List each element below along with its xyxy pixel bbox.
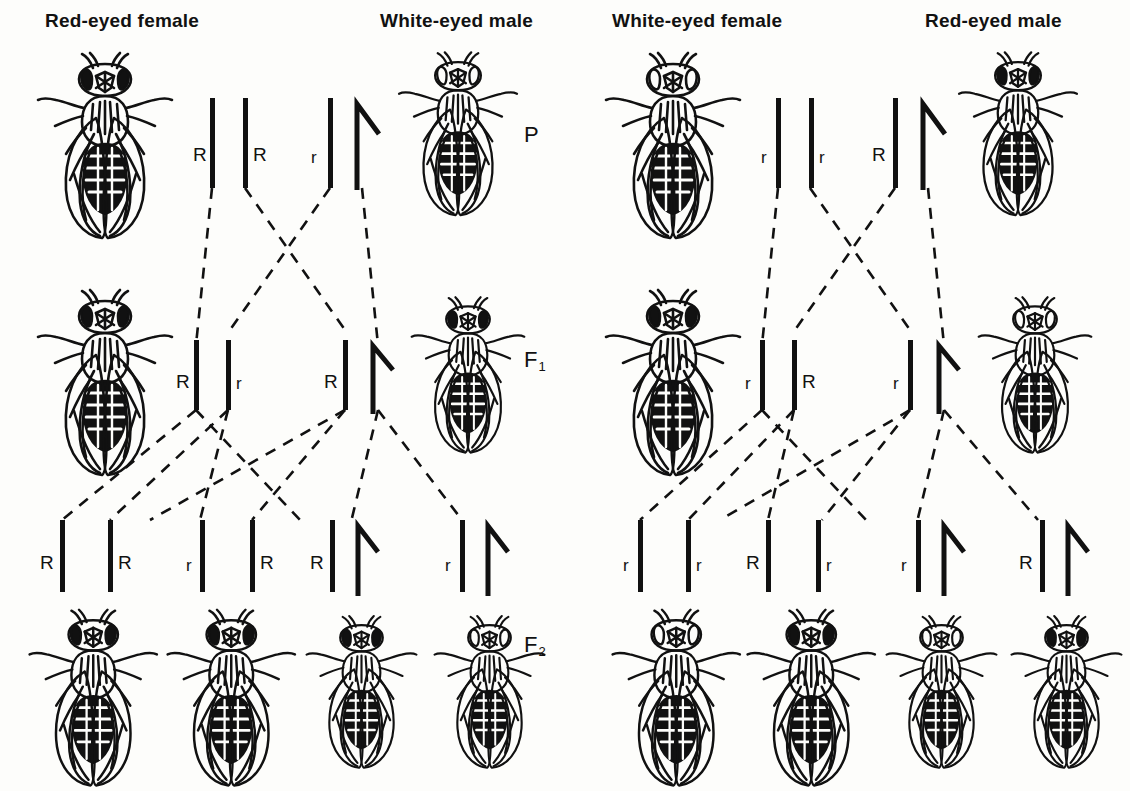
- chromosome-x-bar: [1040, 520, 1045, 592]
- chromosome-x-bar: [343, 340, 348, 410]
- fly-f1-right-male: [972, 293, 1098, 461]
- fly-f2-left-2: [160, 605, 303, 791]
- chromosome-x-bar: [776, 98, 781, 188]
- fly-f2-left-1: [22, 605, 165, 791]
- generation-label-p-text: P: [524, 122, 539, 147]
- allele-label: R: [310, 553, 324, 572]
- chromosome-y-bar: [939, 516, 969, 596]
- fly-f2-right-4: [1005, 612, 1128, 776]
- chromosome-y-bar: [368, 336, 398, 414]
- chromosome-x-bar: [908, 340, 913, 410]
- generation-label-f1-sub: 1: [538, 359, 545, 374]
- allele-label: R: [260, 553, 274, 572]
- allele-label: R: [872, 145, 886, 164]
- chromosome-y-bar: [353, 516, 383, 596]
- chromosome-y-bar: [352, 94, 384, 190]
- chromosome-x-bar: [330, 520, 335, 592]
- chromosome-x-bar: [243, 98, 248, 188]
- fly-f2-right-2: [740, 605, 883, 791]
- chromosome-x-bar: [760, 340, 765, 410]
- fly-p-left-female: [30, 48, 180, 248]
- chromosome-x-bar: [460, 520, 465, 592]
- chromosome-x-bar: [766, 520, 771, 592]
- allele-label: r: [236, 375, 242, 392]
- allele-label: r: [901, 557, 907, 574]
- allele-label: R: [193, 145, 207, 164]
- heading-right-male: Red-eyed male: [925, 10, 1062, 32]
- allele-label: r: [696, 557, 702, 574]
- chromosome-x-bar: [328, 98, 333, 188]
- allele-label: r: [311, 149, 317, 166]
- chromosome-x-bar: [210, 98, 215, 188]
- chromosome-y-bar: [934, 336, 964, 414]
- chromosome-x-bar: [638, 520, 643, 592]
- chromosome-x-bar: [108, 520, 113, 592]
- allele-label: R: [802, 372, 816, 391]
- fly-f2-right-3: [880, 612, 1003, 776]
- fly-f1-right-female: [598, 285, 748, 485]
- heading-left-male: White-eyed male: [380, 10, 533, 32]
- allele-label: R: [746, 553, 760, 572]
- fly-f1-left-male: [405, 293, 531, 461]
- fly-f2-right-1: [605, 605, 748, 791]
- allele-label: R: [253, 145, 267, 164]
- heading-left-female: Red-eyed female: [45, 10, 199, 32]
- chromosome-x-bar: [194, 340, 199, 410]
- chromosome-x-bar: [792, 340, 797, 410]
- allele-label: r: [445, 557, 451, 574]
- allele-label: R: [1019, 553, 1033, 572]
- allele-label: r: [761, 149, 767, 166]
- chromosome-x-bar: [60, 520, 65, 592]
- allele-label: r: [186, 557, 192, 574]
- fly-f2-left-3: [300, 612, 423, 776]
- heading-right-female: White-eyed female: [612, 10, 782, 32]
- chromosome-x-bar: [916, 520, 921, 592]
- allele-label: r: [819, 149, 825, 166]
- allele-label: r: [893, 375, 899, 392]
- chromosome-y-bar: [483, 516, 513, 596]
- chromosome-x-bar: [816, 520, 821, 592]
- fly-p-left-male: [392, 48, 524, 224]
- fly-p-right-male: [952, 48, 1084, 224]
- fly-f2-left-4: [428, 612, 551, 776]
- chromosome-y-bar: [918, 94, 950, 190]
- chromosome-x-bar: [250, 520, 255, 592]
- fly-p-right-female: [598, 48, 748, 248]
- allele-label: R: [324, 372, 338, 391]
- allele-label: r: [826, 557, 832, 574]
- chromosome-y-bar: [1063, 516, 1093, 596]
- chromosome-x-bar: [200, 520, 205, 592]
- generation-label-p: P: [524, 122, 539, 148]
- chromosome-x-bar: [226, 340, 231, 410]
- allele-label: R: [40, 553, 54, 572]
- allele-label: R: [118, 553, 132, 572]
- chromosome-x-bar: [686, 520, 691, 592]
- fly-f1-left-female: [30, 285, 180, 485]
- chromosome-x-bar: [893, 98, 898, 188]
- allele-label: r: [623, 557, 629, 574]
- chromosome-x-bar: [809, 98, 814, 188]
